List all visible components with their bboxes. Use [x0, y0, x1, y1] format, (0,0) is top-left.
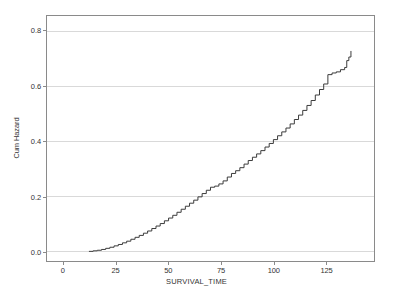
y-tick-label-1: 0.2	[31, 192, 41, 201]
y-tick-mark-3	[43, 86, 46, 87]
plot-svg	[47, 16, 374, 261]
x-tick-label-2: 50	[164, 266, 172, 275]
x-tick-label-3: 75	[217, 266, 225, 275]
y-tick-label-3: 0.6	[31, 81, 41, 90]
x-tick-mark-2	[168, 262, 169, 265]
series-line-0	[89, 51, 351, 251]
x-tick-label-0: 0	[61, 266, 65, 275]
y-axis-tick-labels: 0.00.20.40.60.8	[0, 0, 41, 297]
x-tick-mark-3	[221, 262, 222, 265]
plot-area	[46, 15, 375, 262]
y-axis-title: Cum Hazard	[12, 78, 21, 198]
y-tick-mark-1	[43, 197, 46, 198]
y-tick-label-0: 0.0	[31, 248, 41, 257]
x-axis-title: SURVIVAL_TIME	[0, 277, 393, 286]
x-tick-mark-5	[326, 262, 327, 265]
x-tick-mark-0	[63, 262, 64, 265]
series-group	[89, 51, 351, 251]
x-tick-label-1: 25	[112, 266, 120, 275]
chart-figure: 0.00.20.40.60.8 0255075100125 SURVIVAL_T…	[0, 0, 393, 297]
x-tick-mark-1	[116, 262, 117, 265]
y-tick-mark-0	[43, 252, 46, 253]
x-tick-label-5: 125	[320, 266, 332, 275]
y-tick-mark-4	[43, 30, 46, 31]
gridlines	[47, 31, 374, 251]
x-tick-mark-4	[274, 262, 275, 265]
x-tick-label-4: 100	[268, 266, 280, 275]
y-tick-mark-2	[43, 141, 46, 142]
y-tick-label-4: 0.8	[31, 26, 41, 35]
y-tick-label-2: 0.4	[31, 137, 41, 146]
